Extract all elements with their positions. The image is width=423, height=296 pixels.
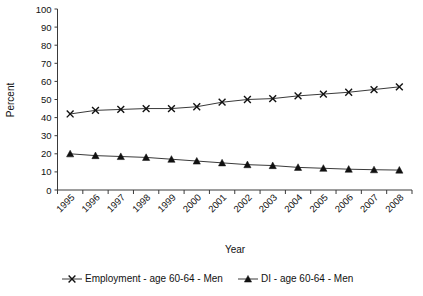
y-tick-label: 70	[41, 58, 52, 69]
x-axis-ticks: 1995199619971998199920002001200220032004…	[54, 190, 412, 214]
x-axis-title: Year	[225, 244, 246, 255]
y-tick-label: 0	[46, 185, 51, 196]
legend-label: Employment - age 60-64 - Men	[85, 273, 223, 284]
series-1	[67, 83, 403, 117]
x-tick-label: 2001	[206, 192, 229, 215]
chart-figure: 0102030405060708090100 19951996199719981…	[0, 0, 423, 296]
axes	[58, 9, 413, 190]
legend-item-1: Employment - age 60-64 - Men	[62, 273, 223, 284]
line-chart: 0102030405060708090100 19951996199719981…	[0, 0, 423, 296]
y-axis-ticks: 0102030405060708090100	[36, 4, 58, 196]
y-tick-label: 90	[41, 22, 52, 33]
x-tick-label: 2005	[307, 192, 330, 215]
x-tick-label: 2008	[383, 192, 406, 215]
x-tick-label: 2002	[231, 192, 254, 215]
x-tick-label: 2007	[358, 192, 381, 215]
y-tick-label: 20	[41, 148, 52, 159]
x-tick-label: 1996	[79, 192, 102, 215]
y-tick-label: 80	[41, 40, 52, 51]
x-tick-label: 1999	[155, 192, 178, 215]
x-tick-label: 1997	[104, 192, 127, 215]
series-2	[67, 150, 403, 173]
x-tick-label: 1995	[54, 192, 77, 215]
x-tick-label: 2004	[282, 192, 305, 215]
x-tick-label: 2003	[256, 192, 279, 215]
series-layer	[67, 83, 403, 173]
y-tick-label: 50	[41, 94, 52, 105]
legend-item-2: DI - age 60-64 - Men	[238, 273, 353, 284]
y-tick-label: 40	[41, 112, 52, 123]
chart-legend: Employment - age 60-64 - MenDI - age 60-…	[62, 273, 353, 284]
y-tick-label: 100	[36, 4, 52, 15]
x-tick-label: 2006	[332, 192, 355, 215]
y-axis-title: Percent	[5, 83, 16, 118]
x-tick-label: 2000	[180, 192, 203, 215]
x-tick-label: 1998	[130, 192, 153, 215]
y-tick-label: 30	[41, 130, 52, 141]
y-tick-label: 60	[41, 76, 52, 87]
legend-label: DI - age 60-64 - Men	[261, 273, 353, 284]
y-tick-label: 10	[41, 166, 52, 177]
